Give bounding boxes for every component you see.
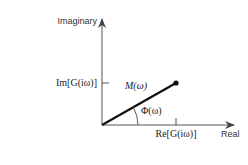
complex-plane-diagram: Imaginary Real Im[G(iω)] Re[G(iω)] M(ω) … [0,0,248,165]
vector-endpoint [173,80,178,85]
im-tick-label: Im[G(iω)] [56,77,97,89]
phase-angle-label: Φ(ω) [141,105,162,117]
imaginary-axis-label: Imaginary [57,16,97,26]
magnitude-label: M(ω) [124,80,148,92]
phase-angle-arc [133,107,138,125]
real-axis-label: Real [221,129,240,139]
re-tick-label: Re[G(iω)] [155,128,196,140]
